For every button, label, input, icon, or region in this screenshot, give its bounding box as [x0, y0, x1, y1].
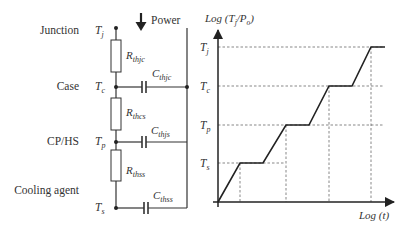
capacitor-thjs	[116, 136, 187, 148]
resistor-thjc	[111, 40, 121, 72]
thermal-impedance-chart: Log (Tj/Po) Log (t) Tj Tc Tp Ts	[200, 12, 394, 222]
x-axis-label: Log (t)	[358, 209, 390, 222]
resistor-thss	[111, 150, 121, 181]
node-cooling	[114, 206, 118, 210]
power-arrow-icon	[136, 13, 147, 31]
level-name-case: Case	[57, 80, 79, 92]
node-cphs	[114, 140, 118, 144]
node-case-rail	[185, 85, 189, 89]
ytick-tc: Tc	[200, 80, 210, 95]
ytick-tj: Tj	[200, 41, 209, 56]
node-label-tc: Tc	[95, 80, 105, 95]
capacitor-label-thss: Cthss	[153, 189, 173, 204]
power-label: Power	[151, 14, 181, 26]
thermal-model-figure: Power Rthjc Rthcs Rthss	[0, 0, 413, 227]
capacitor-label-thjc: Cthjc	[152, 67, 172, 82]
resistor-label-thjc: Rthjc	[125, 49, 145, 64]
ytick-ts: Ts	[200, 157, 210, 172]
level-name-cphs: CP/HS	[47, 135, 79, 147]
node-junction	[114, 26, 118, 30]
level-name-junction: Junction	[40, 24, 79, 36]
impedance-curve	[218, 47, 385, 202]
ytick-tp: Tp	[200, 119, 210, 134]
resistor-label-thcs: Rthcs	[125, 106, 146, 121]
node-label-ts: Ts	[95, 201, 105, 216]
capacitor-thjc	[116, 81, 187, 93]
resistor-label-thss: Rthss	[125, 164, 145, 179]
resistor-thcs	[111, 98, 121, 130]
capacitor-label-thjs: Cthjs	[151, 124, 170, 139]
capacitor-thss	[116, 202, 187, 214]
thermal-circuit: Power Rthjc Rthcs Rthss	[14, 13, 189, 216]
node-label-tp: Tp	[95, 135, 105, 150]
node-label-tj: Tj	[95, 24, 104, 39]
y-axis-label: Log (Tj/Po)	[204, 12, 254, 27]
node-case	[114, 85, 118, 89]
level-name-cooling-agent: Cooling agent	[14, 184, 80, 197]
